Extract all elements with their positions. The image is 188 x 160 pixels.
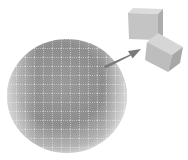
diagram-canvas [0,0,188,160]
wafer [0,35,135,160]
wafer-edge-highlight [7,39,127,153]
wafer-dicing-diagram [0,0,188,160]
